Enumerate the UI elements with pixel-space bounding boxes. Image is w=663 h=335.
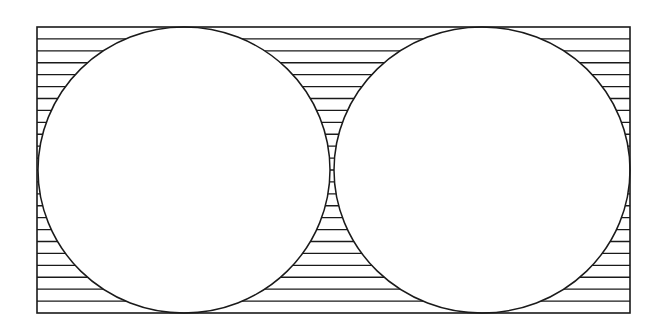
left-circle [38,27,330,313]
circles [38,27,630,313]
diagram-canvas [0,0,663,335]
right-circle [334,27,630,313]
